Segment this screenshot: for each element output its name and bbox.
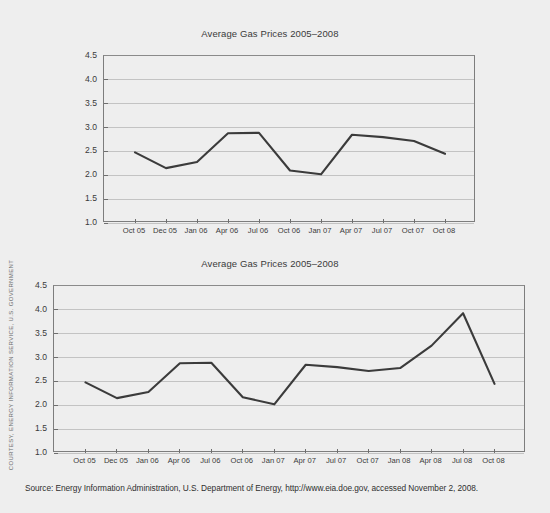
y-axis-label: 2.0 bbox=[10, 399, 47, 409]
y-axis-label: 2.0 bbox=[60, 169, 97, 179]
plot-area bbox=[103, 55, 475, 222]
x-axis-label: Jan 06 bbox=[136, 456, 159, 465]
x-axis-label: Oct 06 bbox=[231, 456, 253, 465]
y-axis-label: 4.5 bbox=[60, 50, 97, 60]
x-axis-label: Oct 06 bbox=[278, 226, 300, 235]
y-axis-label: 1.0 bbox=[60, 217, 97, 227]
x-axis-label: Jul 06 bbox=[200, 456, 220, 465]
y-axis-label: 2.5 bbox=[60, 145, 97, 155]
y-axis-label: 4.5 bbox=[10, 280, 47, 290]
y-axis-label: 4.0 bbox=[60, 74, 97, 84]
x-axis-label: Oct 07 bbox=[402, 226, 424, 235]
chart-top: Average Gas Prices 2005–20084.54.03.53.0… bbox=[60, 28, 480, 246]
chart-title: Average Gas Prices 2005–2008 bbox=[10, 258, 530, 269]
y-axis-label: 1.0 bbox=[10, 447, 47, 457]
y-axis-label: 3.0 bbox=[10, 352, 47, 362]
chart-bottom: Average Gas Prices 2005–20084.54.03.53.0… bbox=[10, 258, 530, 473]
x-axis-label: Dec 05 bbox=[153, 226, 177, 235]
x-axis-label: Apr 07 bbox=[294, 456, 316, 465]
series-line bbox=[104, 56, 476, 223]
x-axis-label: Jul 08 bbox=[452, 456, 472, 465]
x-axis-label: Oct 07 bbox=[356, 456, 378, 465]
source-note: Source: Energy Information Administratio… bbox=[25, 483, 478, 493]
x-axis-label: Jan 07 bbox=[262, 456, 285, 465]
x-axis-label: Apr 07 bbox=[340, 226, 362, 235]
series-line bbox=[54, 286, 526, 453]
y-axis-label: 1.5 bbox=[10, 423, 47, 433]
x-axis-label: Jul 06 bbox=[248, 226, 268, 235]
chart-title: Average Gas Prices 2005–2008 bbox=[60, 28, 480, 39]
x-axis-label: Jul 07 bbox=[326, 456, 346, 465]
y-axis-label: 3.5 bbox=[60, 98, 97, 108]
y-axis-label: 3.5 bbox=[10, 328, 47, 338]
figure-page: COURTESY, ENERGY INFORMATION SERVICE, U.… bbox=[0, 0, 550, 513]
y-axis-label: 3.0 bbox=[60, 122, 97, 132]
x-axis-label: Apr 08 bbox=[419, 456, 441, 465]
x-axis-label: Oct 05 bbox=[73, 456, 95, 465]
y-axis-label: 2.5 bbox=[10, 375, 47, 385]
y-axis-label: 4.0 bbox=[10, 304, 47, 314]
x-axis-label: Dec 05 bbox=[104, 456, 128, 465]
plot-area bbox=[53, 285, 525, 452]
x-axis-label: Jul 07 bbox=[372, 226, 392, 235]
x-axis-label: Apr 06 bbox=[216, 226, 238, 235]
x-axis-label: Oct 05 bbox=[123, 226, 145, 235]
x-axis-label: Oct 08 bbox=[482, 456, 504, 465]
x-axis-label: Jan 07 bbox=[309, 226, 332, 235]
x-axis-label: Jan 06 bbox=[185, 226, 208, 235]
x-axis-label: Apr 06 bbox=[168, 456, 190, 465]
x-axis-label: Oct 08 bbox=[433, 226, 455, 235]
y-axis-label: 1.5 bbox=[60, 193, 97, 203]
x-axis-label: Jan 08 bbox=[388, 456, 411, 465]
